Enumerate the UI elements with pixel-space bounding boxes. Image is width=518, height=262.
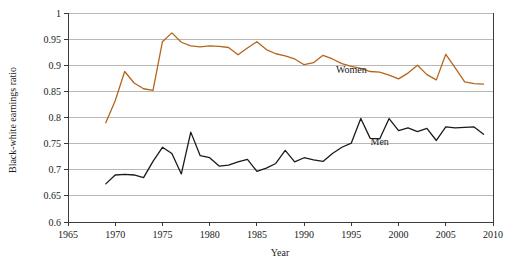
chart-container: 0.60.650.70.750.80.850.90.951 1965197019… (0, 0, 518, 262)
x-tick-label: 1995 (341, 229, 361, 240)
y-tick-label: 0.75 (44, 138, 62, 149)
x-tick-label: 1985 (247, 229, 267, 240)
x-tick-label: 2000 (389, 229, 409, 240)
y-tick-label: 0.9 (49, 60, 62, 71)
series-line-men (106, 119, 484, 184)
x-tick-label: 1990 (294, 229, 314, 240)
y-axis-title: Black-white earnings ratio (7, 67, 18, 173)
x-axis-title: Year (271, 247, 290, 258)
y-tick-label: 0.65 (44, 190, 62, 201)
series-group (106, 33, 484, 184)
x-tick-label: 1975 (152, 229, 172, 240)
x-tick-label: 1970 (105, 229, 125, 240)
line-chart: 0.60.650.70.750.80.850.90.951 1965197019… (0, 0, 518, 262)
x-tick-labels-group: 1965197019751980198519901995200020052010 (58, 229, 503, 240)
series-label-women: Women (336, 64, 367, 75)
x-tick-label: 2005 (436, 229, 456, 240)
y-tick-labels-group: 0.60.650.70.750.80.850.90.951 (44, 8, 62, 228)
series-label-men: Men (370, 136, 388, 147)
gridlines-group (68, 13, 493, 222)
x-tick-label: 1980 (200, 229, 220, 240)
x-tick-label: 2010 (483, 229, 503, 240)
x-tick-label: 1965 (58, 229, 78, 240)
series-line-women (106, 33, 484, 123)
y-tick-label: 0.8 (49, 112, 62, 123)
tick-marks-group (64, 13, 493, 226)
y-tick-label: 0.85 (44, 86, 62, 97)
y-tick-label: 0.6 (49, 217, 62, 228)
y-tick-label: 0.95 (44, 34, 62, 45)
y-tick-label: 0.7 (49, 164, 62, 175)
y-tick-label: 1 (56, 8, 61, 19)
